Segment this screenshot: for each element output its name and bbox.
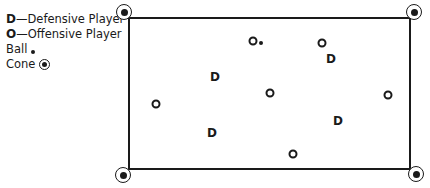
offensive-label: —Offensive Player [16,27,121,42]
defensive-player: D [207,127,217,139]
legend-offensive: O —Offensive Player [6,27,124,42]
defensive-symbol: D [6,12,16,27]
defensive-player: D [326,53,336,65]
cone-icon [39,59,50,70]
ball-icon [31,50,35,54]
legend-defensive: D —Defensive Player [6,12,124,27]
cone-icon [408,166,424,182]
offensive-player [266,89,275,98]
legend-cone: Cone [6,57,124,72]
offensive-player [152,100,161,109]
offensive-symbol: O [6,27,16,42]
offensive-player [249,37,258,46]
ball-icon [259,41,263,45]
offensive-player [289,150,298,159]
legend-ball: Ball [6,42,124,57]
defensive-label: —Defensive Player [16,12,124,27]
cone-icon [406,4,422,20]
ball-label: Ball [6,42,27,57]
defensive-player: D [333,115,343,127]
offensive-player [318,39,327,48]
cone-icon [115,167,131,183]
offensive-player [384,91,393,100]
cone-icon [116,4,132,20]
cone-label: Cone [6,57,35,72]
defensive-player: D [210,71,220,83]
legend: D —Defensive Player O —Offensive Player … [6,12,124,72]
